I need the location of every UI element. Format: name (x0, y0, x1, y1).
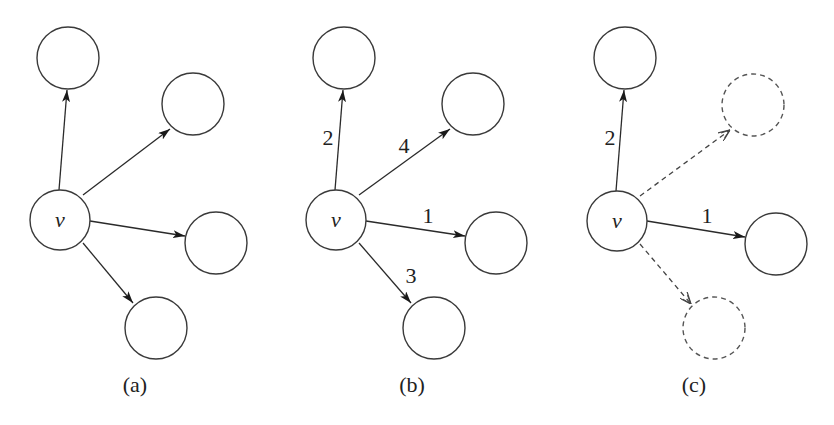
edge-v-bottom-dashed (640, 244, 691, 304)
node-v-label: v (612, 208, 622, 233)
node-bottom (125, 297, 187, 359)
node-upper-right (442, 73, 504, 135)
node-right (745, 213, 807, 275)
edge-v-bottom (83, 243, 133, 303)
panel-c: v 2 1 (c) (587, 27, 807, 397)
graph-figure: v (a) v 2 4 1 3 (b) v 2 1 (c) (0, 0, 834, 425)
edge-v-upper-right (83, 129, 170, 195)
panel-caption: (c) (682, 372, 706, 397)
edge-weight-upper-right: 4 (399, 133, 410, 158)
edge-weight-right: 1 (702, 203, 713, 228)
edge-v-right (90, 221, 185, 236)
edge-weight-right: 1 (423, 203, 434, 228)
edge-v-top (59, 90, 67, 190)
node-v-label: v (331, 207, 341, 232)
node-top (594, 27, 656, 89)
edge-v-right (366, 221, 465, 236)
edge-v-upper-right-dashed (640, 130, 730, 196)
edge-v-top (616, 90, 624, 191)
edge-v-bottom (359, 243, 411, 303)
edge-weight-bottom: 3 (406, 263, 417, 288)
edge-weight-top: 2 (605, 125, 616, 150)
edge-v-top (335, 90, 343, 190)
node-v-label: v (55, 207, 65, 232)
node-upper-right (162, 73, 224, 135)
node-right (185, 212, 247, 274)
panel-b: v 2 4 1 3 (b) (306, 27, 527, 397)
panel-a: v (a) (30, 27, 247, 397)
panel-caption: (b) (399, 372, 425, 397)
node-top (313, 27, 375, 89)
node-top (37, 27, 99, 89)
edge-weight-top: 2 (323, 125, 334, 150)
node-bottom-removed (683, 297, 745, 359)
node-upper-right-removed (722, 74, 784, 136)
panel-caption: (a) (123, 372, 147, 397)
edge-v-right (647, 221, 745, 237)
node-right (465, 212, 527, 274)
node-bottom (403, 297, 465, 359)
